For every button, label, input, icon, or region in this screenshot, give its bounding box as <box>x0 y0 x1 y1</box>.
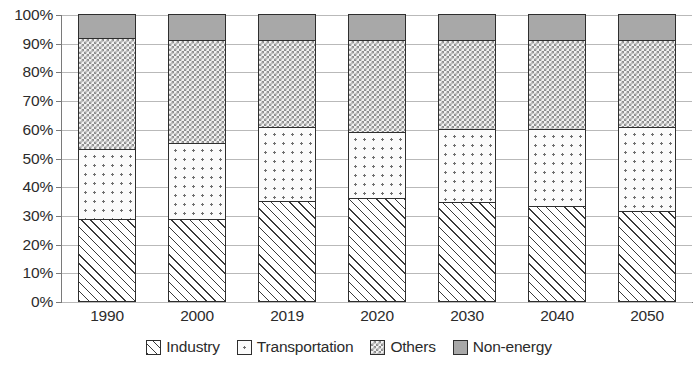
y-axis-tick-label: 80% <box>23 63 53 81</box>
bar-stack <box>618 15 676 302</box>
bar-segment-others-2030[interactable] <box>438 40 496 130</box>
legend-item-transportation[interactable]: Transportation <box>237 338 354 356</box>
y-tick-mark <box>56 273 62 274</box>
bar-group-2030[interactable] <box>438 15 496 302</box>
legend-label: Industry <box>166 338 220 356</box>
y-tick-mark <box>56 44 62 45</box>
y-axis-tick-label: 30% <box>23 207 53 225</box>
y-tick-mark <box>56 245 62 246</box>
bar-segment-industry-2000[interactable] <box>168 219 226 302</box>
legend-label: Transportation <box>257 338 354 356</box>
y-axis-tick-label: 40% <box>23 178 53 196</box>
gridline-0 <box>62 302 692 303</box>
x-axis-tick-label-2020: 2020 <box>337 307 417 325</box>
stacked-bar-chart: 0%10%20%30%40%50%60%70%80%90%100% 199020… <box>0 0 698 365</box>
bar-segment-industry-2050[interactable] <box>618 211 676 302</box>
y-tick-mark <box>56 159 62 160</box>
bar-segment-others-2019[interactable] <box>258 40 316 129</box>
legend-label: Others <box>390 338 435 356</box>
bar-group-2050[interactable] <box>618 15 676 302</box>
y-axis-tick-label: 70% <box>23 92 53 110</box>
bar-group-1990[interactable] <box>78 15 136 302</box>
bar-group-2000[interactable] <box>168 15 226 302</box>
legend-swatch-transportation-icon <box>237 340 252 355</box>
x-axis-tick-label-2019: 2019 <box>247 307 327 325</box>
y-tick-mark <box>56 302 62 303</box>
y-tick-mark <box>56 72 62 73</box>
bar-segment-others-2020[interactable] <box>348 40 406 133</box>
legend-swatch-non-energy-icon <box>453 340 468 355</box>
legend-swatch-industry-icon <box>146 340 161 355</box>
bar-segment-others-2040[interactable] <box>528 40 586 130</box>
bar-segment-transportation-2040[interactable] <box>528 129 586 207</box>
bar-stack <box>168 15 226 302</box>
bar-segment-non-energy-2000[interactable] <box>168 14 226 41</box>
y-tick-mark <box>56 130 62 131</box>
x-axis-tick-label-2030: 2030 <box>427 307 507 325</box>
bar-segment-transportation-2030[interactable] <box>438 129 496 203</box>
bar-segment-non-energy-2030[interactable] <box>438 14 496 41</box>
bar-segment-transportation-2019[interactable] <box>258 127 316 201</box>
bar-segment-transportation-2000[interactable] <box>168 143 226 220</box>
y-tick-mark <box>56 216 62 217</box>
bar-segment-others-1990[interactable] <box>78 38 136 149</box>
legend-item-industry[interactable]: Industry <box>146 338 220 356</box>
bar-segment-transportation-1990[interactable] <box>78 149 136 220</box>
bar-group-2020[interactable] <box>348 15 406 302</box>
bar-stack <box>438 15 496 302</box>
legend-item-others[interactable]: Others <box>370 338 435 356</box>
bar-segment-transportation-2020[interactable] <box>348 132 406 199</box>
legend-label: Non-energy <box>473 338 552 356</box>
y-axis-tick-label: 90% <box>23 35 53 53</box>
bar-stack <box>528 15 586 302</box>
bar-stack <box>348 15 406 302</box>
bar-group-2040[interactable] <box>528 15 586 302</box>
legend-swatch-others-icon <box>370 340 385 355</box>
y-axis-tick-label: 100% <box>14 6 53 24</box>
bar-segment-others-2000[interactable] <box>168 40 226 144</box>
x-axis-tick-label-2040: 2040 <box>517 307 597 325</box>
y-tick-mark <box>56 15 62 16</box>
x-axis-tick-label-2000: 2000 <box>157 307 237 325</box>
bar-segment-industry-2040[interactable] <box>528 206 586 302</box>
y-axis-tick-label: 50% <box>23 150 53 168</box>
y-axis-tick-label: 20% <box>23 236 53 254</box>
chart-legend: IndustryTransportationOthersNon-energy <box>0 338 698 356</box>
bar-segment-others-2050[interactable] <box>618 40 676 129</box>
bar-stack <box>258 15 316 302</box>
bar-segment-non-energy-1990[interactable] <box>78 14 136 39</box>
y-axis-tick-label: 60% <box>23 121 53 139</box>
y-tick-mark <box>56 101 62 102</box>
bar-segment-non-energy-2020[interactable] <box>348 14 406 41</box>
bar-segment-non-energy-2050[interactable] <box>618 14 676 41</box>
y-axis-tick-label: 10% <box>23 264 53 282</box>
bar-segment-non-energy-2040[interactable] <box>528 14 586 41</box>
y-axis-tick-label: 0% <box>31 293 53 311</box>
bar-segment-industry-2030[interactable] <box>438 202 496 302</box>
bar-segment-industry-2019[interactable] <box>258 201 316 302</box>
x-axis-tick-label-1990: 1990 <box>67 307 147 325</box>
y-tick-mark <box>56 187 62 188</box>
bar-segment-non-energy-2019[interactable] <box>258 14 316 41</box>
legend-item-non-energy[interactable]: Non-energy <box>453 338 552 356</box>
x-axis-tick-label-2050: 2050 <box>607 307 687 325</box>
bar-group-2019[interactable] <box>258 15 316 302</box>
bar-segment-transportation-2050[interactable] <box>618 127 676 211</box>
bar-segment-industry-2020[interactable] <box>348 198 406 302</box>
bar-segment-industry-1990[interactable] <box>78 219 136 302</box>
bar-stack <box>78 15 136 302</box>
plot-area: 0%10%20%30%40%50%60%70%80%90%100% <box>62 15 692 302</box>
